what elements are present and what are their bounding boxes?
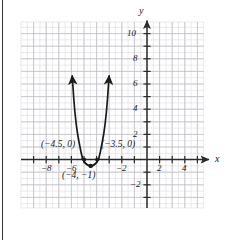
x-tick-label-neg8: −8 <box>41 164 52 173</box>
x-axis-label: x <box>215 154 219 164</box>
point-x-intercept-left <box>82 158 86 162</box>
coordinate-plane-plot <box>0 0 231 240</box>
x-tick-label-4: 4 <box>182 164 187 173</box>
x-tick-label-neg2: −2 <box>116 164 127 173</box>
y-tick-label-4: 4 <box>133 104 138 113</box>
point-x-intercept-right <box>95 158 99 162</box>
y-tick-label-10: 10 <box>127 29 136 38</box>
grid-major-lines <box>21 22 204 208</box>
point-label-x-intercept-right: (−3.5, 0) <box>101 140 135 150</box>
axis-lines <box>21 21 209 209</box>
grid-minor-lines <box>21 22 204 208</box>
x-tick-label-2: 2 <box>157 164 162 173</box>
point-vertex <box>89 164 93 168</box>
figure-canvas: x y 10 8 6 4 2 −2 −8 −6 −2 2 4 (−4.5, 0)… <box>0 0 231 240</box>
y-tick-label-neg2: −2 <box>130 180 141 189</box>
y-tick-label-8: 8 <box>133 54 138 63</box>
point-label-vertex: (−4, −1) <box>62 171 95 181</box>
point-label-x-intercept-left: (−4.5, 0) <box>41 140 75 150</box>
y-tick-label-2: 2 <box>133 130 138 139</box>
y-tick-label-6: 6 <box>133 79 138 88</box>
y-axis-label: y <box>139 6 143 16</box>
